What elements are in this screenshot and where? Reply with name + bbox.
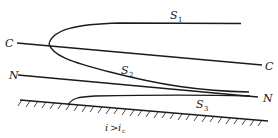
svg-text:c: c bbox=[122, 127, 126, 134]
svg-text:1: 1 bbox=[178, 16, 182, 24]
slope-condition-label: i > i c bbox=[105, 122, 126, 134]
svg-text:S: S bbox=[121, 64, 129, 77]
s1-curve bbox=[49, 23, 241, 44]
s2-curve bbox=[49, 44, 249, 92]
svg-text:S: S bbox=[170, 9, 178, 22]
s3-label: S 3 bbox=[196, 98, 208, 113]
c-label-left: C bbox=[5, 37, 14, 50]
c-label-right: C bbox=[265, 60, 274, 73]
n-label-right: N bbox=[262, 92, 273, 105]
s2-label: S 2 bbox=[121, 64, 133, 79]
s3-curve bbox=[68, 95, 250, 105]
critical-depth-line bbox=[17, 43, 262, 65]
channel-bed bbox=[20, 100, 268, 121]
steep-slope-profile-diagram: C C N N S 1 S 2 S 3 i > i c bbox=[0, 0, 278, 138]
svg-text:2: 2 bbox=[129, 71, 133, 79]
n-label-left: N bbox=[8, 69, 19, 82]
s1-label: S 1 bbox=[170, 9, 182, 24]
bed-hatching bbox=[18, 100, 262, 126]
svg-text:i: i bbox=[118, 122, 121, 133]
svg-text:3: 3 bbox=[204, 105, 208, 113]
svg-text:S: S bbox=[196, 98, 204, 111]
svg-text:i: i bbox=[105, 122, 108, 133]
